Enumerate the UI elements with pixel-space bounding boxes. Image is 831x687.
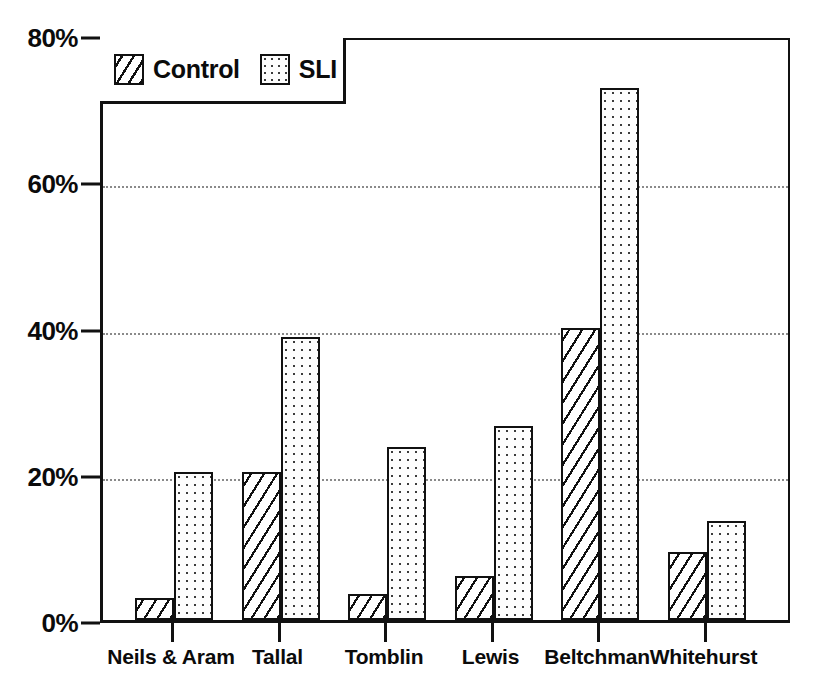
y-axis-tick-mark [81, 329, 100, 332]
y-axis-tick-mark [81, 622, 100, 625]
legend-swatch-sli-icon [260, 54, 290, 85]
x-axis-tick-mark [704, 623, 707, 642]
legend-swatch-control-icon [114, 54, 144, 85]
bar-sli-neils-aram [174, 472, 213, 620]
bar-control-tomblin [348, 594, 387, 620]
plot-area [100, 38, 790, 623]
x-axis-tick-label: Neils & Aram [107, 645, 235, 669]
x-axis-tick-mark [171, 623, 174, 642]
y-axis-tick-mark [81, 37, 100, 40]
bar-chart: 0%20%40%60%80% Neils & AramTallalTomblin… [0, 0, 831, 687]
legend-entry-control: Control [114, 54, 240, 85]
legend-entry-sli: SLI [260, 54, 337, 85]
y-axis-tick-mark [81, 183, 100, 186]
y-axis-tick-label: 0% [41, 608, 78, 639]
bar-sli-tomblin [387, 447, 426, 620]
bar-sli-tallal [281, 337, 320, 620]
bar-sli-whitehurst [707, 521, 746, 620]
x-axis-tick-mark [384, 623, 387, 642]
y-axis-tick-label: 20% [27, 461, 78, 492]
x-axis-tick-label: Tomblin [345, 645, 424, 669]
x-axis-tick-mark [491, 623, 494, 642]
x-axis-tick-label: Lewis [462, 645, 519, 669]
x-axis-tick-label: Beltchman [544, 645, 650, 669]
x-axis-tick-label: Tallal [252, 645, 303, 669]
bar-control-whitehurst [668, 552, 707, 620]
x-axis-tick-mark [278, 623, 281, 642]
y-axis-tick-label: 80% [27, 23, 78, 54]
x-axis-tick-label: Whitehurst [650, 645, 758, 669]
y-axis-tick-mark [81, 475, 100, 478]
chart-legend: ControlSLI [100, 38, 346, 104]
legend-label: Control [153, 55, 240, 84]
y-axis: 0%20%40%60%80% [0, 0, 100, 687]
y-axis-tick-label: 60% [27, 169, 78, 200]
gridline [103, 186, 788, 188]
bar-control-neils-aram [135, 598, 174, 620]
bar-sli-lewis [494, 426, 533, 620]
x-axis-tick-mark [597, 623, 600, 642]
gridline [103, 333, 788, 335]
bar-control-lewis [455, 576, 494, 620]
bar-sli-beltchman [600, 88, 639, 620]
bar-control-beltchman [561, 328, 600, 621]
legend-label: SLI [299, 55, 337, 84]
y-axis-tick-label: 40% [27, 315, 78, 346]
bar-control-tallal [242, 472, 281, 620]
